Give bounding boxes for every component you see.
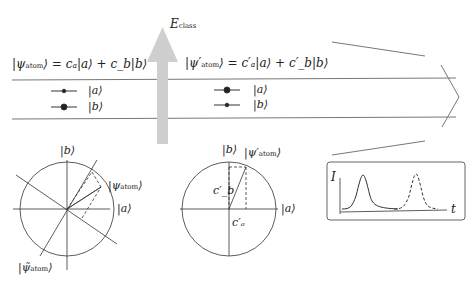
state-equation-after: |ψ′atom⟩ = c′ₐ|a⟩ + c′_b|b⟩ <box>185 57 328 69</box>
right-cb-label: c′_b <box>213 185 234 196</box>
state-equation-before: |ψatom⟩ = cₐ|a⟩ + c_b|b⟩ <box>12 58 147 70</box>
bloch-circle-left <box>13 160 117 270</box>
pulse-xlabel: t <box>451 203 456 215</box>
bloch-circle-right <box>180 162 278 256</box>
diagram-canvas <box>0 0 476 283</box>
left-axis-b-label: |b⟩ <box>60 145 75 156</box>
energy-levels-after <box>214 87 240 107</box>
left-axis-a-label: |a⟩ <box>117 203 132 214</box>
right-ca-label: c′ₐ <box>232 217 245 228</box>
pulse-plot <box>327 162 465 220</box>
level-b-before-label: |b⟩ <box>88 101 103 112</box>
right-axis-a-label: |a⟩ <box>281 203 296 214</box>
field-label: Eclass <box>170 18 196 30</box>
level-b-after-label: |b⟩ <box>253 99 268 110</box>
level-a-before-label: |a⟩ <box>88 85 103 96</box>
right-axis-b-label: |b⟩ <box>222 144 237 155</box>
energy-levels-before <box>51 89 77 110</box>
pulse-ylabel: I <box>331 171 336 183</box>
left-psi-tilde-label: |ψ̃atom⟩ <box>18 262 52 273</box>
left-psi-label: |ψatom⟩ <box>108 180 142 191</box>
right-psi-prime-label: |ψ′atom⟩ <box>244 147 281 158</box>
level-a-after-label: |a⟩ <box>253 84 268 95</box>
classical-field-arrow <box>147 27 178 144</box>
